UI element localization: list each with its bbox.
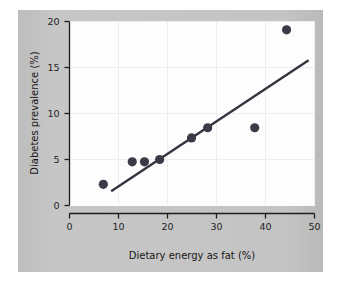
data-points [99,25,291,189]
x-axis-ticks [70,214,315,219]
data-point [155,155,164,164]
y-tick-labels: 05101520 [47,16,59,211]
x-tick-label: 40 [259,221,271,232]
data-point [250,123,259,132]
data-point [282,25,291,34]
gridlines [70,22,315,206]
y-axis-title: Diabetes prevalence (%) [29,51,40,175]
y-axis-ticks [65,22,70,206]
data-point [187,133,196,142]
x-tick-labels: 01020304050 [66,221,320,232]
data-point [203,123,212,132]
x-tick-label: 20 [161,221,173,232]
y-tick-label: 10 [47,108,59,119]
scatter-plot: 01020304050 05101520 Dietary energy as f… [0,0,340,281]
data-point [128,157,137,166]
x-tick-label: 30 [210,221,222,232]
y-tick-label: 20 [47,16,59,27]
y-tick-label: 5 [53,154,59,165]
x-tick-label: 10 [112,221,124,232]
data-point [99,180,108,189]
x-tick-label: 0 [66,221,72,232]
chart-figure: 01020304050 05101520 Dietary energy as f… [0,0,340,281]
x-tick-label: 50 [308,221,320,232]
y-tick-label: 0 [53,200,59,211]
y-tick-label: 15 [47,62,59,73]
x-axis-title: Dietary energy as fat (%) [129,250,256,261]
data-point [140,157,149,166]
